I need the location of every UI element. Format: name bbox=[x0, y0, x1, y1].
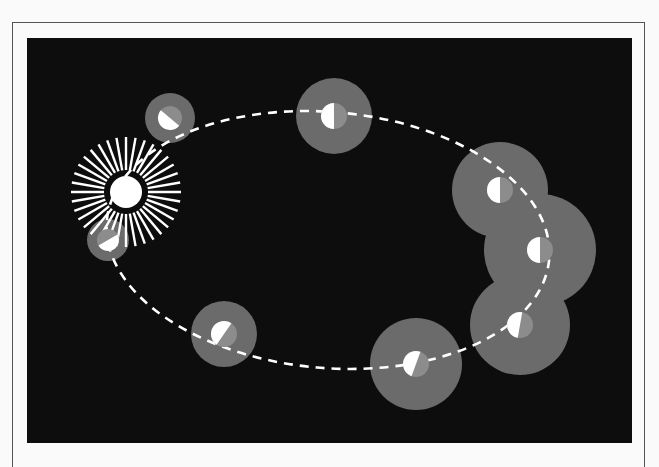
sun-icon bbox=[71, 137, 181, 247]
comet-position-5-nucleus bbox=[507, 312, 533, 338]
comet-position-7-nucleus bbox=[211, 321, 237, 347]
comet-position-4-nucleus bbox=[527, 237, 553, 263]
comet-position-8-nucleus bbox=[97, 229, 119, 251]
comet-position-2-nucleus bbox=[321, 103, 347, 129]
comet-position-1-nucleus bbox=[158, 106, 182, 130]
sun-disk bbox=[110, 176, 142, 208]
comet-position-3-nucleus bbox=[487, 177, 513, 203]
comet-position-6-nucleus bbox=[403, 351, 429, 377]
